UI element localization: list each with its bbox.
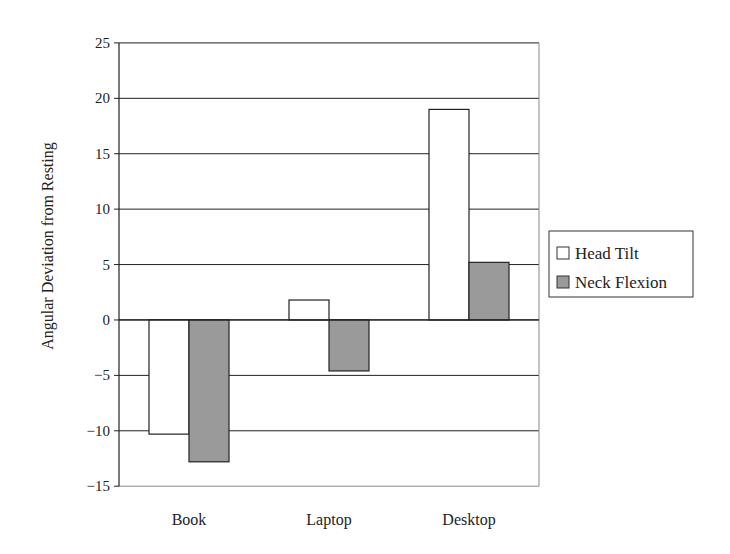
legend-swatch-neck-flexion bbox=[557, 276, 569, 288]
y-tick-label: 15 bbox=[95, 146, 110, 162]
bar-desktop-neck-flexion bbox=[469, 262, 509, 320]
bar-desktop-head-tilt bbox=[429, 109, 469, 320]
legend-label-neck-flexion: Neck Flexion bbox=[575, 273, 668, 292]
bars bbox=[149, 109, 509, 461]
x-category-label: Book bbox=[172, 511, 207, 528]
y-tick-label: 10 bbox=[95, 201, 110, 217]
legend-label-head-tilt: Head Tilt bbox=[575, 244, 639, 263]
y-tick-label: 20 bbox=[95, 90, 110, 106]
x-category-label: Desktop bbox=[442, 511, 495, 529]
bar-laptop-head-tilt bbox=[289, 300, 329, 320]
y-tick-label: −5 bbox=[94, 367, 110, 383]
x-axis-labels: BookLaptopDesktop bbox=[172, 511, 496, 529]
legend: Head Tilt Neck Flexion bbox=[549, 231, 693, 297]
bar-chart: 2520151050−5−10−15 BookLaptopDesktop Ang… bbox=[0, 0, 730, 554]
bar-book-head-tilt bbox=[149, 320, 189, 434]
y-tick-label: −10 bbox=[87, 423, 110, 439]
y-tick-label: 0 bbox=[103, 312, 111, 328]
bar-laptop-neck-flexion bbox=[329, 320, 369, 371]
y-tick-label: 5 bbox=[103, 257, 111, 273]
legend-swatch-head-tilt bbox=[557, 247, 569, 259]
y-axis-ticks: 2520151050−5−10−15 bbox=[87, 35, 119, 494]
bar-book-neck-flexion bbox=[189, 320, 229, 462]
y-tick-label: −15 bbox=[87, 478, 110, 494]
y-axis-title: Angular Deviation from Resting bbox=[39, 142, 57, 350]
y-tick-label: 25 bbox=[95, 35, 110, 51]
x-category-label: Laptop bbox=[306, 511, 351, 529]
